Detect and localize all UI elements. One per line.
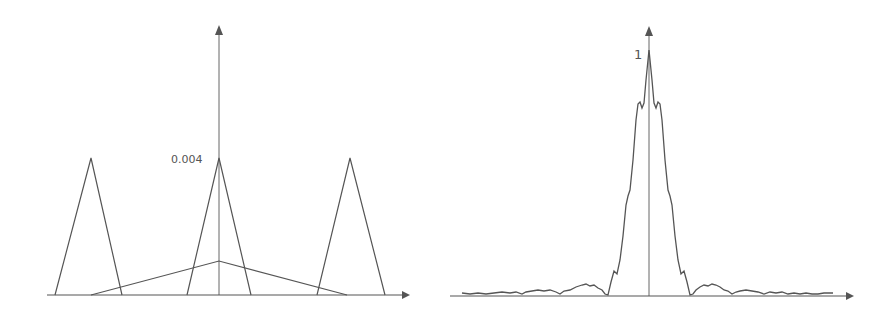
spectrum-curve	[462, 50, 833, 295]
figure: 0.004 1	[0, 0, 895, 320]
left-y-axis-arrow-icon	[215, 25, 223, 35]
triangle-left	[55, 158, 122, 295]
right-y-axis-arrow-icon	[645, 26, 653, 36]
right-x-axis-arrow-icon	[846, 292, 854, 300]
left-x-axis-arrow-icon	[402, 291, 410, 299]
right-chart	[450, 26, 854, 300]
left-peak-label: 0.004	[171, 153, 203, 166]
right-peak-label: 1	[634, 47, 642, 62]
triangle-right	[317, 158, 385, 295]
left-chart	[47, 25, 410, 299]
